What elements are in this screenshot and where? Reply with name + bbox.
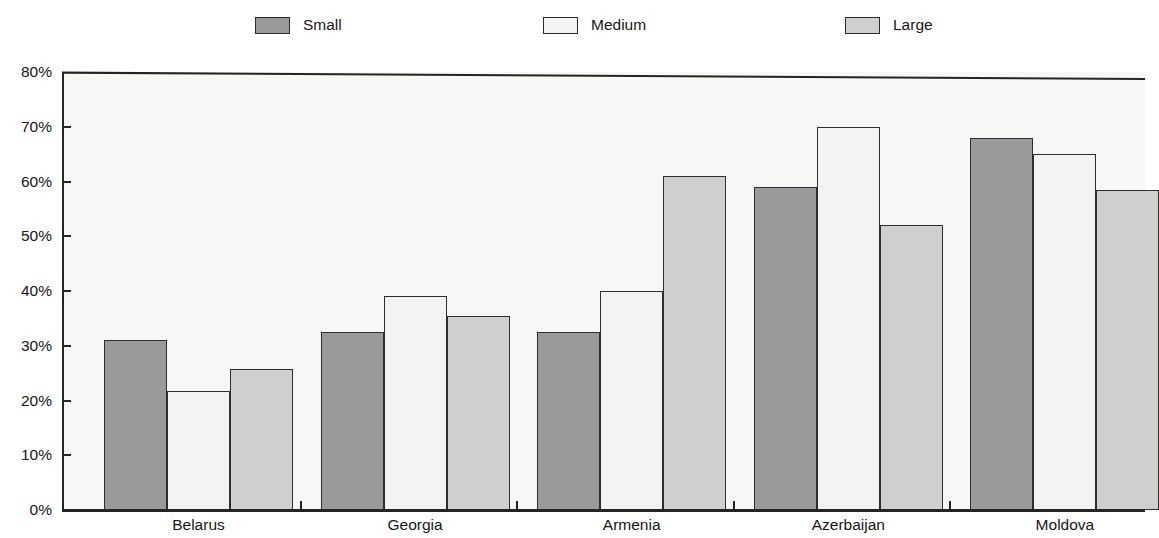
y-axis-tick-label: 50% [0,229,52,245]
legend-swatch-small-icon [255,17,290,34]
y-axis-tick-label: 70% [0,119,52,135]
y-axis-tick-label: 60% [0,174,52,190]
bar-belarus-small [104,340,167,510]
bar-armenia-large [663,176,726,510]
bar-moldova-small [970,138,1033,510]
bar-armenia-small [537,332,600,510]
y-axis-tick-label: 40% [0,283,52,299]
bar-azerbaijan-large [880,225,943,510]
bar-moldova-large [1096,190,1159,510]
chart-legend: Small Medium Large [0,0,1145,48]
x-axis-tick-label: Armenia [603,517,661,533]
legend-swatch-medium-icon [543,17,578,34]
bar-moldova-medium [1033,154,1096,510]
y-axis-tick-label: 30% [0,338,52,354]
bar-georgia-medium [384,296,447,510]
y-axis-tick-label: 20% [0,393,52,409]
legend-label-large: Large [893,17,933,33]
legend-label-medium: Medium [591,17,646,33]
y-axis-tick-label: 0% [0,502,52,518]
legend-label-small: Small [303,17,342,33]
x-axis-tick-mark [949,501,951,510]
bar-georgia-large [447,316,510,510]
x-axis-tick-label: Moldova [1036,517,1095,533]
bar-belarus-medium [167,391,230,510]
x-axis-tick-label: Azerbaijan [812,517,885,533]
bar-georgia-small [321,332,384,510]
x-axis-tick-label: Belarus [172,517,225,533]
bars-layer [62,72,1145,510]
bar-azerbaijan-medium [817,127,880,510]
legend-swatch-large-icon [845,17,880,34]
x-axis-tick-mark [300,501,302,510]
legend-item-large[interactable]: Large [845,14,933,36]
x-axis-tick-label: Georgia [388,517,443,533]
x-axis-line [62,509,1145,512]
x-axis-tick-mark [516,501,518,510]
bar-belarus-large [230,369,293,510]
bar-armenia-medium [600,291,663,510]
legend-item-small[interactable]: Small [255,14,342,36]
y-axis-tick-label: 80% [0,64,52,80]
y-axis-tick-label: 10% [0,448,52,464]
x-axis-tick-mark [733,501,735,510]
legend-item-medium[interactable]: Medium [543,14,646,36]
bar-azerbaijan-small [754,187,817,510]
